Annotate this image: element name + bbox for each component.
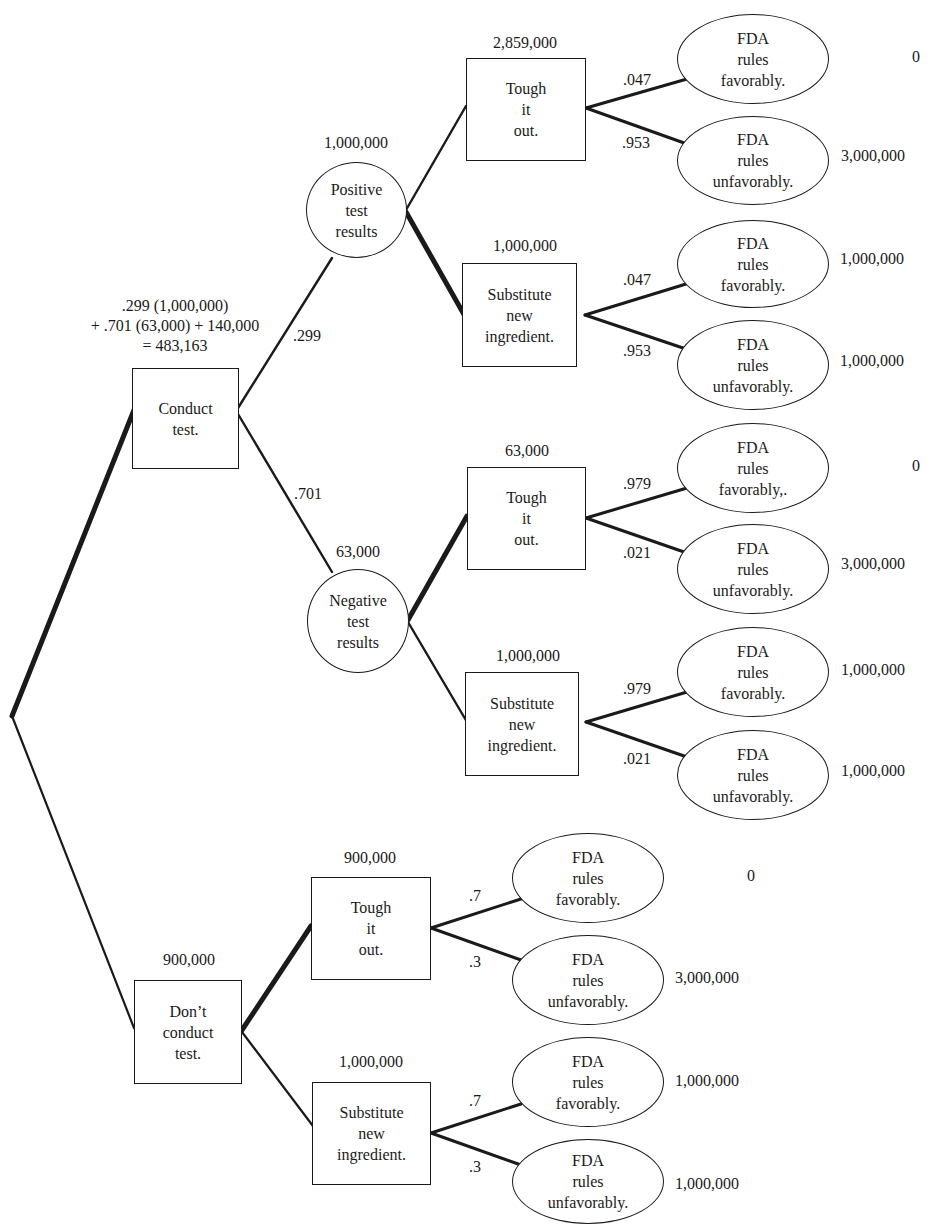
prob-outcome-12: .3 [469,1157,481,1177]
value-pos-substitute: 1,000,000 [493,236,557,256]
outcome-node-fda-favorable-9: FDA rules favorably. [512,833,664,923]
payoff-outcome-3: 1,000,000 [840,249,904,269]
node-label: FDA rules unfavorably. [713,334,793,397]
node-label: Substitute new ingredient. [485,284,554,347]
node-label: Substitute new ingredient. [337,1102,406,1165]
decision-node-conduct-test: Conduct test. [132,368,239,469]
payoff-outcome-4: 1,000,000 [840,351,904,371]
value-positive-test: 1,000,000 [324,133,388,153]
payoff-outcome-6: 3,000,000 [841,554,905,574]
node-label: Don’t conduct test. [163,1001,214,1064]
prob-outcome-6: .021 [623,543,651,563]
prob-outcome-1: .047 [623,70,651,90]
decision-node-pos-tough-it-out: Tough it out. [466,58,586,161]
value-negative-test: 63,000 [336,542,380,562]
node-label: FDA rules favorably. [721,233,785,296]
prob-outcome-9: .7 [469,886,481,906]
node-label: FDA rules favorably. [721,641,785,704]
node-label: FDA rules unfavorably. [713,538,793,601]
node-label: FDA rules favorably. [556,847,620,910]
node-label: Positive test results [331,179,383,242]
node-label: Negative test results [329,590,387,653]
prob-outcome-2: .953 [622,133,650,153]
chance-node-negative-test-results: Negative test results [307,569,409,673]
prob-outcome-11: .7 [469,1091,481,1111]
decision-node-dont-tough-it-out: Tough it out. [311,877,431,980]
node-label: Tough it out. [506,487,547,550]
outcome-node-fda-favorable-5: FDA rules favorably,. [677,423,829,513]
decision-node-dont-substitute-ingredient: Substitute new ingredient. [312,1082,431,1185]
value-dont-substitute: 1,000,000 [339,1052,403,1072]
payoff-outcome-12: 1,000,000 [675,1174,739,1194]
prob-outcome-8: .021 [623,749,651,769]
chance-node-positive-test-results: Positive test results [306,162,407,258]
node-label: FDA rules favorably. [556,1051,620,1114]
prob-outcome-10: .3 [469,952,481,972]
decision-node-neg-tough-it-out: Tough it out. [467,467,586,570]
decision-node-pos-substitute-ingredient: Substitute new ingredient. [462,263,577,367]
outcome-node-fda-unfavorable-12: FDA rules unfavorably. [512,1139,664,1224]
payoff-outcome-10: 3,000,000 [675,968,739,988]
node-label: Tough it out. [506,78,547,141]
value-dont-conduct: 900,000 [163,950,215,970]
payoff-outcome-11: 1,000,000 [675,1071,739,1091]
prob-outcome-7: .979 [623,679,651,699]
prob-outcome-3: .047 [623,270,651,290]
outcome-node-fda-unfavorable-8: FDA rules unfavorably. [677,730,829,820]
outcome-node-fda-favorable-7: FDA rules favorably. [677,627,829,717]
node-label: FDA rules unfavorably. [713,744,793,807]
value-neg-tough: 63,000 [505,441,549,461]
node-label: FDA rules unfavorably. [548,1150,628,1213]
node-label: Tough it out. [351,897,392,960]
root-expected-value-calculation: .299 (1,000,000) + .701 (63,000) + 140,0… [60,296,290,356]
outcome-node-fda-unfavorable-6: FDA rules unfavorably. [677,524,829,614]
outcome-node-fda-unfavorable-4: FDA rules unfavorably. [677,320,829,410]
payoff-outcome-9: 0 [747,866,755,886]
outcome-node-fda-favorable-1: FDA rules favorably. [677,14,829,104]
outcome-node-fda-favorable-3: FDA rules favorably. [677,220,829,308]
value-dont-tough: 900,000 [344,848,396,868]
prob-outcome-4: .953 [623,341,651,361]
node-label: FDA rules unfavorably. [713,129,793,192]
node-label: FDA rules favorably,. [719,437,787,500]
prob-negative: .701 [294,484,322,504]
decision-node-neg-substitute-ingredient: Substitute new ingredient. [465,672,579,776]
payoff-outcome-7: 1,000,000 [841,660,905,680]
outcome-node-fda-unfavorable-2: FDA rules unfavorably. [677,116,829,205]
value-neg-substitute: 1,000,000 [496,646,560,666]
decision-node-dont-conduct-test: Don’t conduct test. [134,980,242,1084]
prob-positive: .299 [293,326,321,346]
payoff-outcome-5: 0 [912,456,920,476]
node-label: Conduct test. [158,398,212,440]
node-label: FDA rules unfavorably. [548,949,628,1012]
node-label: FDA rules favorably. [721,28,785,91]
value-pos-tough: 2,859,000 [493,33,557,53]
outcome-node-fda-unfavorable-10: FDA rules unfavorably. [512,935,664,1025]
node-label: Substitute new ingredient. [488,693,557,756]
payoff-outcome-8: 1,000,000 [841,761,905,781]
payoff-outcome-2: 3,000,000 [841,146,905,166]
outcome-node-fda-favorable-11: FDA rules favorably. [512,1037,664,1127]
payoff-outcome-1: 0 [912,47,920,67]
prob-outcome-5: .979 [623,474,651,494]
